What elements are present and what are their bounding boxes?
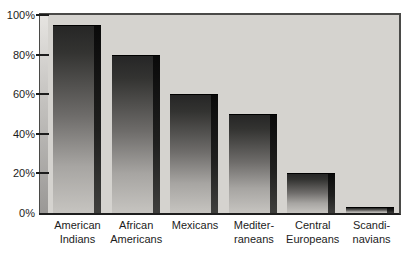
bar-slot xyxy=(224,15,283,213)
bar-shadow-edge xyxy=(387,208,394,213)
y-tick-label: 20% xyxy=(13,168,35,179)
x-category-label: Mexicans xyxy=(166,219,225,233)
y-tick-label: 40% xyxy=(13,128,35,139)
bar-1 xyxy=(53,25,101,213)
x-axis-labels: American IndiansAfrican AmericansMexican… xyxy=(48,219,401,246)
bar-face xyxy=(170,95,211,213)
bar-face xyxy=(53,26,94,213)
bar-3 xyxy=(170,94,218,213)
y-axis-labels: 0%20%40%60%80%100% xyxy=(0,15,36,213)
bar-face xyxy=(229,115,270,213)
y-tick-label: 60% xyxy=(13,89,35,100)
bar-shadow-edge xyxy=(328,174,335,213)
bar-slot xyxy=(107,15,166,213)
bar-slot xyxy=(341,15,400,213)
x-category-label: Mediter- raneans xyxy=(224,219,283,246)
bar-shadow-edge xyxy=(270,115,277,213)
bar-face xyxy=(287,174,328,213)
bar-slot xyxy=(282,15,341,213)
bar-shadow-edge xyxy=(94,26,101,213)
bar-6 xyxy=(346,207,394,213)
y-axis-band xyxy=(39,15,48,213)
bars-container xyxy=(48,15,399,213)
y-tick-label: 100% xyxy=(7,10,35,21)
bar-slot xyxy=(48,15,107,213)
x-category-label: Central Europeans xyxy=(283,219,342,246)
bar-shadow-edge xyxy=(153,56,160,213)
bar-shadow-edge xyxy=(211,95,218,213)
x-category-label: Scandi- navians xyxy=(342,219,401,246)
bar-chart-figure: 0%20%40%60%80%100% American IndiansAfric… xyxy=(0,0,411,263)
x-category-label: African Americans xyxy=(107,219,166,246)
plot-area xyxy=(39,13,401,215)
x-category-label: American Indians xyxy=(48,219,107,246)
bar-face xyxy=(346,208,387,213)
bar-2 xyxy=(112,55,160,213)
bar-slot xyxy=(165,15,224,213)
bar-face xyxy=(112,56,153,213)
y-tick-label: 80% xyxy=(13,49,35,60)
y-tick-label: 0% xyxy=(19,208,35,219)
bar-5 xyxy=(287,173,335,213)
bar-4 xyxy=(229,114,277,213)
